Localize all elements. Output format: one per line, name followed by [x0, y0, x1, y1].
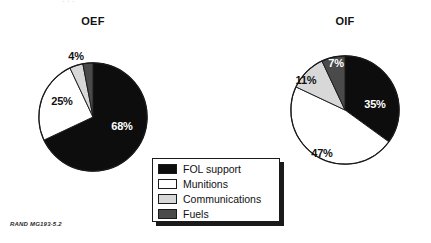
legend-item-communications: Communications	[158, 192, 279, 206]
pie-oif-svg	[288, 53, 402, 167]
chart-title-oef: OEF	[81, 15, 105, 27]
oif-slice-label-communications: 11%	[296, 74, 317, 86]
oif-slice-label-munitions: 47%	[311, 147, 332, 159]
chart-legend: FOL support Munitions Communications Fue…	[152, 158, 280, 222]
oef-slice-label-fuels: 3%	[91, 47, 107, 59]
legend-label-munitions: Munitions	[183, 179, 228, 190]
oif-slice-label-fol-support: 35%	[364, 98, 385, 110]
oif-slice-label-fuels: 7%	[328, 57, 344, 69]
figure-two-pie-charts: . . . OEF 68% 25% 4% 3% OIF 35% 47% 11% …	[0, 0, 431, 243]
legend-label-communications: Communications	[183, 194, 261, 205]
legend-swatch-communications	[158, 194, 177, 204]
chart-title-oif: OIF	[335, 15, 354, 27]
oef-slice-label-communications: 4%	[68, 50, 84, 62]
oef-slice-label-munitions: 25%	[51, 95, 72, 107]
pie-chart-oef	[36, 60, 150, 174]
legend-item-munitions: Munitions	[158, 177, 279, 191]
legend-swatch-munitions	[158, 179, 177, 189]
rand-attribution: RAND MG193-5.2	[10, 221, 62, 227]
pie-chart-oif	[288, 53, 402, 167]
legend-label-fuels: Fuels	[183, 209, 209, 220]
legend-swatch-fol-support	[158, 164, 177, 174]
oef-slice-label-fol-support: 68%	[111, 120, 132, 132]
legend-item-fuels: Fuels	[158, 207, 279, 221]
pie-oef-svg	[36, 60, 150, 174]
legend-label-fol-support: FOL support	[183, 164, 241, 175]
legend-swatch-fuels	[158, 209, 177, 219]
legend-item-fol-support: FOL support	[158, 162, 279, 176]
clipped-caption-remnant: . . .	[0, 0, 431, 8]
